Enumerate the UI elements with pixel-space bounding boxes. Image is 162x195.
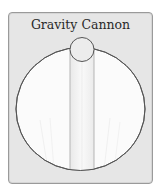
cannon-ball-circle (70, 38, 94, 62)
game-stage: Gravity Cannon (0, 0, 162, 195)
gravity-cannon-illustration (0, 0, 162, 195)
